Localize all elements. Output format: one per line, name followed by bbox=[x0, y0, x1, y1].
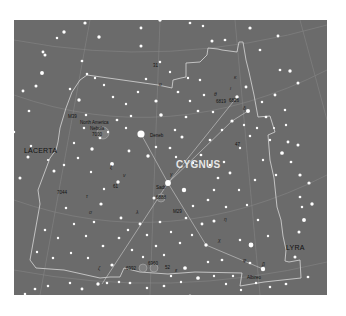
star bbox=[140, 27, 143, 30]
object-label: 6819 bbox=[216, 100, 226, 105]
star bbox=[212, 111, 215, 114]
star bbox=[40, 71, 44, 75]
object-label: 7000 bbox=[92, 133, 102, 138]
star bbox=[202, 25, 205, 28]
star bbox=[239, 239, 242, 242]
object-label: 6992 bbox=[126, 267, 136, 272]
star bbox=[240, 289, 242, 291]
star bbox=[145, 78, 148, 81]
neighbor-constellation-label: LYRA bbox=[286, 244, 305, 251]
star bbox=[24, 293, 27, 295]
star bbox=[146, 234, 149, 237]
star bbox=[188, 294, 191, 295]
star bbox=[249, 135, 252, 138]
star bbox=[209, 139, 212, 142]
star bbox=[73, 223, 75, 225]
star bbox=[207, 261, 210, 264]
star bbox=[63, 164, 66, 167]
star-designation-label: γ bbox=[170, 172, 173, 177]
star bbox=[142, 256, 144, 258]
star bbox=[155, 146, 158, 149]
star bbox=[85, 114, 88, 117]
star bbox=[269, 286, 272, 289]
star bbox=[130, 115, 133, 118]
star bbox=[255, 282, 257, 284]
star bbox=[87, 257, 89, 259]
star bbox=[83, 127, 86, 130]
star bbox=[248, 26, 251, 29]
star-designation-label: β bbox=[262, 262, 265, 267]
star bbox=[179, 242, 182, 245]
star bbox=[127, 229, 130, 232]
star bbox=[229, 172, 232, 175]
star bbox=[18, 176, 21, 179]
object-label: 6960 bbox=[148, 262, 158, 267]
star bbox=[287, 141, 290, 144]
star bbox=[163, 254, 165, 256]
star bbox=[296, 143, 299, 146]
star-designation-label: o bbox=[159, 82, 162, 87]
star bbox=[93, 221, 96, 224]
star-designation-label: ν bbox=[123, 173, 126, 178]
star bbox=[243, 124, 245, 126]
star bbox=[261, 267, 265, 271]
star bbox=[246, 109, 250, 113]
object-label: Albireo bbox=[247, 276, 261, 281]
object-label: 6826 bbox=[229, 99, 239, 104]
star bbox=[177, 91, 180, 94]
star bbox=[47, 159, 49, 161]
star bbox=[197, 110, 200, 113]
star bbox=[34, 84, 37, 87]
star bbox=[159, 221, 162, 224]
star bbox=[81, 60, 84, 63]
neighbor-constellation-label: LACERTA bbox=[24, 147, 57, 154]
star bbox=[182, 188, 186, 192]
star bbox=[57, 237, 59, 239]
star bbox=[159, 61, 162, 64]
star bbox=[192, 205, 195, 208]
star bbox=[146, 154, 149, 157]
star bbox=[284, 109, 287, 112]
asterism-line bbox=[102, 111, 248, 284]
star bbox=[159, 113, 163, 117]
star bbox=[81, 288, 84, 291]
star bbox=[210, 39, 213, 42]
star bbox=[285, 124, 287, 126]
object-label: 52 bbox=[165, 266, 170, 271]
star bbox=[137, 91, 140, 94]
star bbox=[56, 37, 59, 40]
star bbox=[200, 154, 203, 157]
star bbox=[269, 139, 271, 141]
star bbox=[204, 243, 207, 246]
star bbox=[34, 288, 37, 291]
star bbox=[183, 266, 187, 270]
star bbox=[170, 231, 172, 233]
star bbox=[310, 202, 313, 205]
star bbox=[285, 283, 288, 286]
star bbox=[137, 130, 144, 137]
star bbox=[217, 177, 220, 180]
star bbox=[223, 161, 226, 164]
object-label: 47 bbox=[235, 143, 240, 148]
star bbox=[174, 129, 177, 132]
star bbox=[221, 129, 224, 132]
star-designation-label: ι bbox=[230, 86, 231, 91]
star bbox=[94, 77, 96, 79]
star-designation-label: λ bbox=[136, 210, 138, 215]
object-label: M39 bbox=[68, 115, 77, 120]
star bbox=[155, 245, 158, 248]
object-label: Deneb bbox=[150, 134, 163, 139]
star bbox=[102, 245, 105, 248]
star bbox=[191, 234, 193, 236]
star bbox=[154, 99, 157, 102]
star-designation-label: ε bbox=[175, 268, 177, 273]
star bbox=[175, 156, 177, 158]
constellation-title: CYGNUS bbox=[176, 160, 221, 170]
star bbox=[36, 251, 38, 253]
star bbox=[169, 71, 171, 73]
star bbox=[83, 21, 86, 24]
star bbox=[280, 151, 284, 155]
star bbox=[257, 219, 260, 222]
star bbox=[110, 263, 113, 266]
star bbox=[77, 157, 80, 160]
